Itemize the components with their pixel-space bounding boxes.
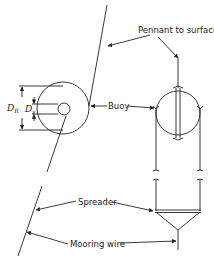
spreader-leader-left: [36, 201, 76, 210]
pennant-leader-right: [158, 37, 178, 58]
spreader-leg-right: [178, 212, 200, 230]
left-lower-rod: [47, 116, 66, 172]
buoy-leader-right: [127, 106, 154, 108]
left-buoy-inner-circle: [58, 103, 70, 115]
dr-symbol: DR: [6, 103, 19, 114]
mooring-diagram: Pennant to surface Buoy Spreader Mooring…: [0, 0, 214, 260]
mooring-leader-right: [120, 241, 176, 243]
right-buoy-circle: [156, 91, 200, 135]
spreader-leader-right: [112, 202, 153, 211]
diagram-canvas: Pennant to surface Buoy Spreader Mooring…: [0, 0, 214, 260]
left-mooring-wire: [18, 186, 42, 256]
pennant-leader-left: [108, 35, 150, 46]
ds-symbol: Ds: [24, 104, 35, 115]
mooring-leader-left: [27, 232, 68, 244]
pennant-label: Pennant to surface: [138, 25, 214, 35]
clamp-marks: [153, 86, 203, 140]
spreader-leg-left: [156, 212, 178, 230]
left-pennant-line: [89, 5, 107, 106]
break-mark: [153, 170, 203, 180]
mooring-wire-label: Mooring wire: [70, 239, 125, 249]
buoy-label: Buoy: [108, 101, 129, 111]
spreader-label: Spreader: [78, 197, 117, 207]
